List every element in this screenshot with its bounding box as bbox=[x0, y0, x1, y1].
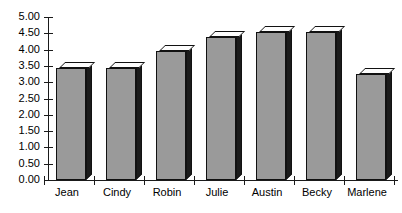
y-axis-tick-mark bbox=[44, 50, 53, 51]
bar bbox=[106, 62, 136, 180]
bar bbox=[56, 62, 86, 180]
y-axis-tick-mark bbox=[44, 33, 53, 34]
x-axis-tick-mark bbox=[194, 176, 195, 185]
y-axis-tick-mark bbox=[44, 164, 53, 165]
y-axis-labels: 0.000.501.001.502.002.503.003.504.004.50… bbox=[0, 0, 40, 213]
bar-front-face bbox=[356, 74, 386, 180]
x-axis-tick-mark bbox=[44, 176, 45, 185]
x-axis-tick-mark bbox=[244, 176, 245, 185]
y-axis-tick-label: 1.00 bbox=[2, 141, 40, 152]
x-axis-tick-label: Cindy bbox=[92, 186, 142, 198]
y-axis-tick-label: 0.50 bbox=[2, 158, 40, 169]
bar-front-face bbox=[206, 37, 236, 180]
x-axis-tick-label: Julie bbox=[192, 186, 242, 198]
bar-side-face bbox=[86, 62, 92, 180]
bar bbox=[356, 68, 386, 180]
y-axis-tick-label: 0.00 bbox=[2, 174, 40, 185]
bar-chart: 0.000.501.001.502.002.503.003.504.004.50… bbox=[0, 0, 402, 213]
x-axis-tick-mark bbox=[294, 176, 295, 185]
y-axis-tick-label: 4.50 bbox=[2, 27, 40, 38]
x-axis-tick-label: Austin bbox=[242, 186, 292, 198]
y-axis-tick-label: 1.50 bbox=[2, 125, 40, 136]
bar-front-face bbox=[56, 68, 86, 180]
x-axis-tick-label: Marlene bbox=[342, 186, 392, 198]
bar-front-face bbox=[106, 68, 136, 180]
bar bbox=[306, 26, 336, 180]
bar-front-face bbox=[306, 32, 336, 180]
y-axis-tick-mark bbox=[44, 180, 53, 181]
bar-side-face bbox=[186, 45, 192, 180]
bar bbox=[256, 26, 286, 180]
y-axis-tick-label: 2.50 bbox=[2, 93, 40, 104]
y-axis-tick-mark bbox=[44, 17, 53, 18]
bar-front-face bbox=[156, 51, 186, 180]
bar bbox=[156, 45, 186, 180]
bar-front-face bbox=[256, 32, 286, 180]
x-axis-tick-mark bbox=[394, 176, 395, 185]
x-axis-tick-label: Robin bbox=[142, 186, 192, 198]
bar bbox=[206, 31, 236, 180]
bar-side-face bbox=[386, 68, 392, 180]
x-axis-tick-mark bbox=[94, 176, 95, 185]
x-axis-tick-label: Jean bbox=[42, 186, 92, 198]
y-axis-tick-mark bbox=[44, 82, 53, 83]
bar-side-face bbox=[136, 62, 142, 180]
y-axis-tick-label: 5.00 bbox=[2, 11, 40, 22]
y-axis-tick-label: 3.50 bbox=[2, 60, 40, 71]
x-axis-tick-mark bbox=[344, 176, 345, 185]
bar-side-face bbox=[336, 26, 342, 180]
y-axis-tick-mark bbox=[44, 131, 53, 132]
y-axis-tick-mark bbox=[44, 115, 53, 116]
y-axis-tick-mark bbox=[44, 99, 53, 100]
x-axis-tick-label: Becky bbox=[292, 186, 342, 198]
y-axis-tick-label: 3.00 bbox=[2, 76, 40, 87]
y-axis-tick-label: 4.00 bbox=[2, 44, 40, 55]
bar-side-face bbox=[286, 26, 292, 180]
plot-area: 0.000.501.001.502.002.503.003.504.004.50… bbox=[0, 0, 402, 213]
y-axis-tick-mark bbox=[44, 147, 53, 148]
x-axis-tick-mark bbox=[144, 176, 145, 185]
y-axis-tick-label: 2.00 bbox=[2, 109, 40, 120]
y-axis-tick-mark bbox=[44, 66, 53, 67]
bar-side-face bbox=[236, 31, 242, 180]
